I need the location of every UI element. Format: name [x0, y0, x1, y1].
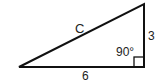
- right-angle-label: 90°: [116, 45, 134, 59]
- base-label: 6: [82, 69, 89, 82]
- triangle-diagram: C 3 6 90°: [0, 0, 161, 82]
- hypotenuse-label: C: [75, 21, 84, 36]
- vertical-side-label: 3: [148, 29, 155, 43]
- right-angle-marker: [134, 57, 144, 67]
